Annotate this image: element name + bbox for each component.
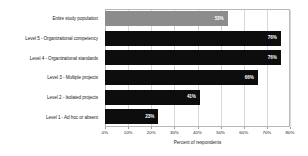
bar-value-label: 41% (187, 95, 196, 100)
x-tick-label: 60% (239, 130, 248, 135)
bar-row: 76% (105, 29, 290, 49)
bar-value-label: 23% (145, 115, 154, 120)
bar-chart: Entire study populationLevel 5 - Organiz… (0, 0, 308, 156)
x-tick-mark (244, 127, 245, 129)
bars-layer: 53%76%76%66%41%23% (105, 9, 290, 127)
bar-row: 53% (105, 9, 290, 29)
bar-row: 66% (105, 68, 290, 88)
bar-value-label: 76% (268, 36, 277, 41)
x-tick-mark (128, 127, 129, 129)
category-label: Level 3 - Multiple projects (47, 68, 98, 88)
category-label: Level 5 - Organizational competency (25, 29, 98, 49)
bar-row: 41% (105, 88, 290, 108)
x-tick-mark (174, 127, 175, 129)
category-label: Level 2 - Isolated projects (47, 88, 98, 108)
bar-row: 76% (105, 48, 290, 68)
x-tick-label: 80% (286, 130, 295, 135)
x-tick-label: 10% (124, 130, 133, 135)
gridline (290, 10, 291, 126)
x-tick-mark (290, 127, 291, 129)
x-tick-label: 30% (170, 130, 179, 135)
x-tick-mark (221, 127, 222, 129)
category-label: Level 1 - Ad hoc or absent (46, 107, 98, 127)
bar[interactable]: 23% (105, 109, 158, 124)
x-tick-mark (267, 127, 268, 129)
bar-value-label: 76% (268, 56, 277, 61)
x-tick-label: 70% (262, 130, 271, 135)
x-tick-label: 0% (102, 130, 108, 135)
bar[interactable]: 41% (105, 90, 200, 105)
x-tick-mark (105, 127, 106, 129)
x-axis-title: Percent of respondents (105, 140, 290, 145)
x-tick-label: 50% (216, 130, 225, 135)
bar-value-label: 66% (245, 75, 254, 80)
bar[interactable]: 76% (105, 31, 281, 46)
x-tick-mark (151, 127, 152, 129)
category-axis-labels: Entire study populationLevel 5 - Organiz… (0, 9, 102, 127)
x-tick-label: 20% (147, 130, 156, 135)
bar-row: 23% (105, 107, 290, 127)
category-label: Level 4 - Organizational standards (30, 48, 98, 68)
bar[interactable]: 66% (105, 70, 258, 85)
bar[interactable]: 53% (105, 11, 228, 26)
bar-value-label: 53% (215, 16, 224, 21)
x-tick-mark (198, 127, 199, 129)
category-label: Entire study population (52, 9, 98, 29)
x-axis: 0%10%20%30%40%50%60%70%80% (105, 127, 290, 139)
bar[interactable]: 76% (105, 50, 281, 65)
x-tick-label: 40% (193, 130, 202, 135)
